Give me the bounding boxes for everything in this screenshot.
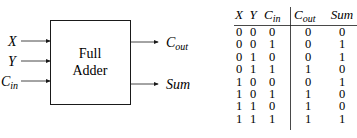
block-label-line2: Adder <box>73 63 108 78</box>
table-header-y: Y <box>249 7 258 22</box>
full-adder-figure: Full Adder X Y Cin Cout Sum X Y Cin Cout… <box>0 0 357 138</box>
table-cell: 1 <box>339 112 345 126</box>
truth-table: X Y Cin Cout Sum 00000001010100101110100… <box>234 7 357 130</box>
table-header-x: X <box>234 7 244 22</box>
input-label-cin: Cin <box>1 74 18 91</box>
input-label-x: X <box>7 34 17 49</box>
table-cell: 1 <box>250 112 256 126</box>
table-header-cout: Cout <box>294 7 316 24</box>
table-cell: 1 <box>236 112 242 126</box>
block-label-line1: Full <box>79 46 102 61</box>
output-label-cout: Cout <box>166 35 188 52</box>
output-label-sum: Sum <box>166 77 190 92</box>
table-header-cin: Cin <box>264 7 280 24</box>
table-cell: 1 <box>305 112 311 126</box>
table-cell: 1 <box>269 112 275 126</box>
table-header-sum: Sum <box>331 7 353 22</box>
input-label-y: Y <box>8 54 18 69</box>
